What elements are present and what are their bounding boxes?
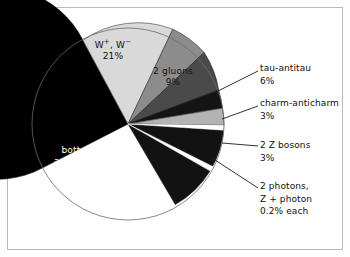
leader-line-charm	[222, 106, 258, 119]
callout-photons-line2: Z + photon	[260, 193, 312, 206]
leader-line-tau	[216, 71, 258, 92]
callout-tau-antitau-value: 6%	[260, 75, 311, 88]
label-w-bosons-line1: W+, W−	[78, 40, 148, 51]
pie-chart-figure: W+, W− 21% 2 gluons 9% bottom- antibotto…	[0, 0, 350, 257]
callout-photons: 2 photons, Z + photon 0.2% each	[260, 180, 312, 218]
label-gluons-line1: 2 gluons	[144, 66, 202, 77]
leader-line-photons	[212, 158, 258, 188]
callout-tau-antitau: tau-antitau 6%	[260, 62, 311, 87]
label-gluons-value: 9%	[144, 77, 202, 88]
label-bottom-antibottom: bottom- antibottom 57%	[38, 145, 122, 178]
label-bottom-line1: bottom-	[38, 145, 122, 156]
pie-chart-svg	[0, 0, 350, 257]
pie-slices	[0, 0, 224, 220]
label-w-bosons: W+, W− 21%	[78, 40, 148, 62]
leader-line-zbosons	[222, 143, 258, 146]
label-w-bosons-value: 21%	[78, 51, 148, 62]
callout-photons-value: 0.2% each	[260, 205, 312, 218]
callout-z-bosons-title: 2 Z bosons	[260, 139, 310, 152]
callout-tau-antitau-title: tau-antitau	[260, 62, 311, 75]
label-bottom-value: 57%	[38, 167, 122, 178]
slice-dark-band[interactable]	[128, 124, 224, 205]
label-bottom-line2: antibottom	[38, 156, 122, 167]
label-gluons: 2 gluons 9%	[144, 66, 202, 88]
callout-charm-anticharm: charm-anticharm 3%	[260, 97, 339, 122]
callout-z-bosons: 2 Z bosons 3%	[260, 139, 310, 164]
callout-photons-line1: 2 photons,	[260, 180, 312, 193]
callout-charm-anticharm-title: charm-anticharm	[260, 97, 339, 110]
callout-z-bosons-value: 3%	[260, 152, 310, 165]
callout-charm-anticharm-value: 3%	[260, 110, 339, 123]
